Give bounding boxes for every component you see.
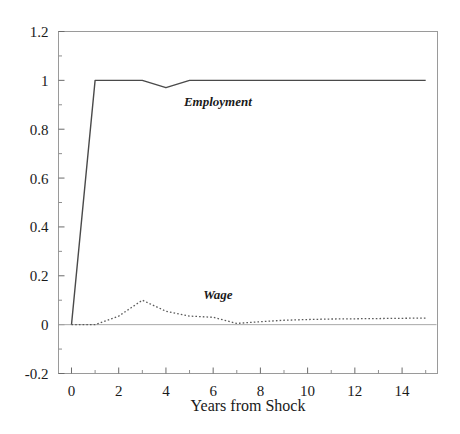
y-tick-label: 0.4 [30,219,49,235]
chart-figure: -0.200.20.40.60.811.202468101214 Employm… [0,0,460,434]
x-tick-label: 4 [162,383,170,399]
x-tick-label: 14 [395,383,411,399]
x-tick-label: 2 [115,383,123,399]
y-tick-label: 1.2 [30,24,49,40]
y-tick-label: 1 [41,73,49,89]
x-axis-title: Years from Shock [191,397,306,414]
line-chart: -0.200.20.40.60.811.202468101214 Employm… [0,0,460,434]
series-label-employment: Employment [183,94,252,109]
y-tick-label: 0.2 [30,268,49,284]
x-axis-title-text: Years from Shock [191,397,306,414]
y-tick-label: 0.6 [30,171,49,187]
x-tick-label: 0 [68,383,76,399]
y-tick-label: -0.2 [25,366,49,382]
chart-background [0,0,460,434]
x-tick-label: 12 [347,383,362,399]
series-label-wage: Wage [203,287,233,302]
y-tick-label: 0.8 [30,122,49,138]
y-tick-label: 0 [41,317,49,333]
